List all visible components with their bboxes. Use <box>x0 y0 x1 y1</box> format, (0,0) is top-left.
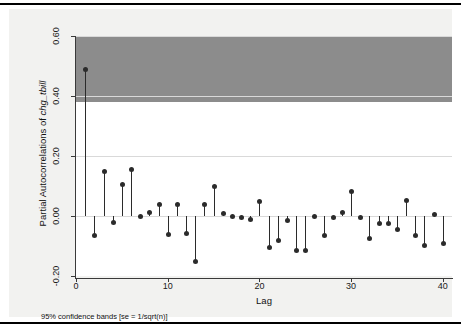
pacf-point <box>193 259 198 264</box>
figure-bottom-rule <box>0 322 461 324</box>
pacf-point <box>358 215 363 220</box>
pacf-point <box>184 231 189 236</box>
pacf-point <box>267 245 272 250</box>
pacf-stem <box>278 216 279 241</box>
pacf-point <box>111 220 116 225</box>
pacf-point <box>413 233 418 238</box>
y-tick-mark <box>71 216 75 217</box>
pacf-point <box>212 184 217 189</box>
plot-area <box>76 36 452 276</box>
pacf-point <box>175 202 180 207</box>
pacf-point <box>404 198 409 203</box>
pacf-point <box>239 215 244 220</box>
pacf-stem <box>305 216 306 251</box>
pacf-point <box>432 212 437 217</box>
pacf-stem <box>104 172 105 216</box>
y-tick-mark <box>71 96 75 97</box>
pacf-point <box>230 214 235 219</box>
x-tick-label: 40 <box>423 281 461 291</box>
pacf-point <box>367 236 372 241</box>
pacf-stem <box>131 170 132 217</box>
y-tick-mark <box>71 156 75 157</box>
y-tick-mark <box>71 276 75 277</box>
pacf-point <box>377 221 382 226</box>
x-axis-line <box>75 278 453 279</box>
figure-canvas: Partial Autocorrelations of chg_tbill -0… <box>9 9 452 317</box>
y-axis-title: Partial Autocorrelations of chg_tbill <box>37 34 48 274</box>
gridline-y <box>76 96 452 97</box>
pacf-point <box>340 210 345 215</box>
pacf-point <box>395 227 400 232</box>
pacf-point <box>166 232 171 237</box>
pacf-point <box>386 221 391 226</box>
pacf-point <box>202 202 207 207</box>
gridline-y <box>76 216 452 217</box>
gridline-y <box>76 156 452 157</box>
chart-figure: Partial Autocorrelations of chg_tbill -0… <box>0 0 461 330</box>
pacf-point <box>312 214 317 219</box>
pacf-point <box>157 202 162 207</box>
pacf-stem <box>296 216 297 251</box>
pacf-point <box>221 211 226 216</box>
pacf-point <box>285 218 290 223</box>
pacf-stem <box>424 216 425 245</box>
pacf-point <box>83 67 88 72</box>
confidence-band-note: 95% confidence bands [se = 1/sqrt(n)] <box>41 312 168 321</box>
x-tick-label: 20 <box>239 281 279 291</box>
x-axis-title: Lag <box>76 295 452 306</box>
y-tick-label: 0.20 <box>50 139 62 173</box>
gridline-y <box>76 36 452 37</box>
pacf-point <box>276 238 281 243</box>
y-tick-mark <box>71 36 75 37</box>
pacf-stem <box>85 69 86 216</box>
pacf-point <box>331 215 336 220</box>
pacf-point <box>248 217 253 222</box>
pacf-point <box>441 241 446 246</box>
pacf-stem <box>269 216 270 248</box>
pacf-point <box>92 233 97 238</box>
pacf-stem <box>443 216 444 243</box>
confidence-band <box>76 36 452 102</box>
y-axis-title-plain: Partial Autocorrelations of <box>37 115 48 226</box>
y-tick-label: 0.40 <box>50 79 62 113</box>
pacf-stem <box>214 186 215 216</box>
pacf-point <box>147 210 152 215</box>
pacf-stem <box>122 185 123 216</box>
pacf-point <box>303 248 308 253</box>
pacf-point <box>120 182 125 187</box>
y-axis-title-variable: chg_tbill <box>37 81 48 116</box>
pacf-point <box>422 243 427 248</box>
pacf-point <box>257 199 262 204</box>
pacf-point <box>102 169 107 174</box>
x-tick-label: 0 <box>56 281 96 291</box>
pacf-point <box>349 189 354 194</box>
y-tick-label: 0.00 <box>50 199 62 233</box>
pacf-stem <box>195 216 196 262</box>
pacf-point <box>322 233 327 238</box>
x-tick-label: 10 <box>148 281 188 291</box>
figure-top-rule <box>0 3 461 5</box>
pacf-stem <box>351 191 352 216</box>
pacf-point <box>129 167 134 172</box>
y-tick-label: 0.60 <box>50 19 62 53</box>
pacf-point <box>138 214 143 219</box>
x-tick-label: 30 <box>331 281 371 291</box>
pacf-point <box>294 248 299 253</box>
